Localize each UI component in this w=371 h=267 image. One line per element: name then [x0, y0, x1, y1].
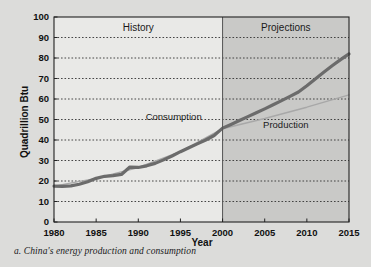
chart-figure: 19801985199019952000200520102015 0102030…	[0, 0, 371, 267]
x-label-2005: 2005	[254, 227, 276, 238]
y-label-90: 90	[38, 32, 49, 43]
y-label-60: 60	[38, 93, 49, 104]
x-label-2010: 2010	[296, 227, 317, 238]
y-label-80: 80	[38, 52, 49, 63]
y-label-40: 40	[38, 134, 49, 145]
x-label-1980: 1980	[43, 227, 64, 238]
energy-line-chart: 19801985199019952000200520102015 0102030…	[0, 0, 371, 267]
y-label-50: 50	[38, 114, 49, 125]
x-label-2015: 2015	[338, 227, 360, 238]
x-label-1995: 1995	[170, 227, 192, 238]
x-label-1985: 1985	[86, 227, 108, 238]
projections-region-label: Projections	[261, 22, 310, 33]
y-label-70: 70	[38, 73, 49, 84]
x-label-1990: 1990	[128, 227, 149, 238]
production-label: Production	[263, 119, 308, 130]
y-axis-title: Quadrillion Btu	[19, 86, 30, 158]
y-label-0: 0	[44, 216, 49, 227]
y-label-20: 20	[38, 175, 49, 186]
y-label-100: 100	[33, 11, 49, 22]
x-label-2000: 2000	[212, 227, 233, 238]
history-region-label: History	[123, 22, 154, 33]
y-label-10: 10	[38, 196, 49, 207]
consumption-label: Consumption	[146, 111, 202, 122]
figure-caption: a. China's energy production and consump…	[14, 246, 196, 256]
y-label-30: 30	[38, 155, 49, 166]
